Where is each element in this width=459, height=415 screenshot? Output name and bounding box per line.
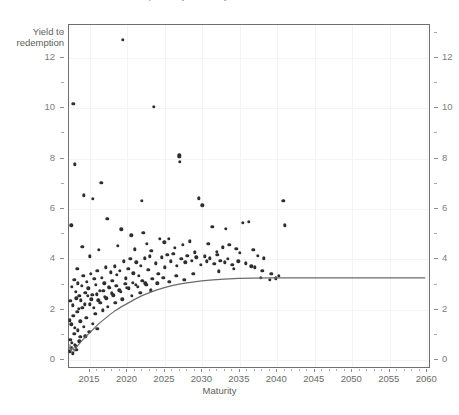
x-axis-tick xyxy=(126,369,127,372)
scatter-point xyxy=(203,255,206,258)
scatter-point xyxy=(231,263,234,266)
scatter-point xyxy=(156,282,159,285)
y-axis-tick-label: 2 xyxy=(442,303,447,314)
gridline-vertical xyxy=(277,25,278,367)
scatter-point xyxy=(135,261,138,264)
y-axis-tick-label: 4 xyxy=(50,252,55,263)
scatter-point xyxy=(141,231,144,234)
scatter-point xyxy=(127,267,130,270)
x-axis-minor-tick xyxy=(336,369,337,371)
scatter-point xyxy=(282,199,285,202)
scatter-point xyxy=(145,242,148,245)
gridline-horizontal xyxy=(69,58,429,59)
scatter-point xyxy=(79,298,82,301)
fitted-yield-curve xyxy=(69,25,429,367)
x-axis-minor-tick xyxy=(254,369,255,371)
x-axis-minor-tick xyxy=(134,369,135,371)
scatter-point xyxy=(69,299,72,302)
scatter-point xyxy=(93,277,96,280)
gridline-horizontal xyxy=(69,360,429,361)
scatter-point xyxy=(175,264,178,267)
x-axis-minor-tick xyxy=(216,369,217,371)
scatter-point xyxy=(94,312,97,315)
x-axis-minor-tick xyxy=(224,369,225,371)
x-axis-tick xyxy=(426,369,427,372)
y-axis-tick-label: 0 xyxy=(50,353,55,364)
x-axis-minor-tick xyxy=(186,369,187,371)
scatter-point xyxy=(94,283,97,286)
scatter-point xyxy=(173,246,176,249)
scatter-point xyxy=(174,274,177,277)
scatter-point xyxy=(132,272,135,275)
scatter-point xyxy=(95,292,98,295)
scatter-point xyxy=(82,325,85,328)
x-axis-minor-tick xyxy=(156,369,157,371)
x-axis-tick xyxy=(276,369,277,372)
scatter-point xyxy=(192,272,195,275)
scatter-point xyxy=(121,297,124,300)
scatter-point xyxy=(219,259,222,262)
y-axis-tick xyxy=(60,359,64,360)
x-axis-minor-tick xyxy=(359,369,360,371)
x-axis-minor-tick xyxy=(291,369,292,371)
scatter-point xyxy=(91,322,94,325)
gridline-horizontal xyxy=(69,108,429,109)
scatter-point xyxy=(270,272,273,275)
y-axis-minor-tick xyxy=(434,284,437,285)
scatter-point xyxy=(183,278,186,281)
scatter-point xyxy=(188,240,191,243)
scatter-point xyxy=(78,340,81,343)
y-axis-tick xyxy=(434,57,438,58)
y-axis-tick xyxy=(60,57,64,58)
x-axis-minor-tick xyxy=(261,369,262,371)
scatter-point xyxy=(133,248,136,251)
scatter-point xyxy=(186,254,189,257)
scatter-point xyxy=(75,348,78,351)
scatter-point xyxy=(224,227,227,230)
gridline-vertical xyxy=(90,25,91,367)
x-axis-minor-tick xyxy=(411,369,412,371)
scatter-point xyxy=(99,301,102,304)
x-axis-tick xyxy=(389,369,390,372)
x-axis-minor-tick xyxy=(329,369,330,371)
scatter-point xyxy=(216,253,219,256)
gridline-vertical xyxy=(427,25,428,367)
gridline-vertical xyxy=(165,25,166,367)
scatter-point xyxy=(253,266,256,269)
scatter-point xyxy=(86,294,89,297)
scatter-point xyxy=(89,272,92,275)
y-axis-minor-tick xyxy=(61,132,64,133)
y-axis-tick-label: 6 xyxy=(50,202,55,213)
scatter-point xyxy=(90,297,93,300)
scatter-point xyxy=(259,276,262,279)
scatter-point xyxy=(102,289,105,292)
scatter-point xyxy=(244,261,247,264)
scatter-point xyxy=(73,332,76,335)
chart-title-clipped: Yield to redemption by maturity xyxy=(0,0,459,6)
scatter-point xyxy=(73,162,76,165)
scatter-point xyxy=(221,246,224,249)
y-axis-tick-label: 4 xyxy=(442,252,447,263)
scatter-point xyxy=(78,294,81,297)
y-axis-tick-label: 0 xyxy=(442,353,447,364)
scatter-point xyxy=(91,197,94,200)
x-axis-tick-label: 2055 xyxy=(378,373,399,384)
y-axis-tick xyxy=(434,107,438,108)
y-axis-minor-tick xyxy=(61,32,64,33)
scatter-point xyxy=(150,277,153,280)
scatter-point xyxy=(81,245,84,248)
scatter-point xyxy=(140,199,143,202)
x-axis-minor-tick xyxy=(209,369,210,371)
y-axis-tick xyxy=(434,258,438,259)
x-axis-tick xyxy=(239,369,240,372)
scatter-point xyxy=(71,351,74,354)
y-axis-tick-label: 8 xyxy=(442,152,447,163)
scatter-point xyxy=(252,248,255,251)
chart-title: Yield to redemption by maturity xyxy=(78,0,229,1)
x-axis-tick-label: 2020 xyxy=(116,373,137,384)
chart-figure: Yield to redemption by maturity Yield to… xyxy=(0,0,459,415)
x-axis-tick-label: 2035 xyxy=(228,373,249,384)
scatter-point xyxy=(168,280,171,283)
y-axis-minor-tick xyxy=(434,233,437,234)
scatter-point xyxy=(130,294,133,297)
